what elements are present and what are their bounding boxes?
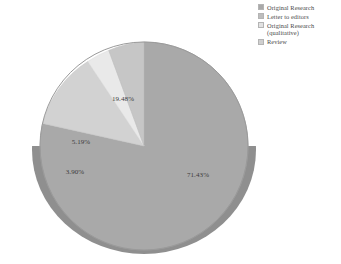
legend-item-label: Review bbox=[267, 38, 287, 46]
legend-swatch-icon bbox=[258, 22, 264, 28]
slice-value-label-original-research: 71.43% bbox=[187, 171, 209, 179]
legend-item-review[interactable]: Review bbox=[258, 38, 340, 46]
legend-item-original-research-qualitative[interactable]: Original Research (qualitative) bbox=[258, 21, 340, 37]
pie-chart-figure: 71.43% 19.48% 5.19% 3.90% Original Resea… bbox=[0, 0, 341, 264]
slice-value-label-review: 3.90% bbox=[66, 168, 85, 176]
slice-value-label-letter-to-editors: 19.48% bbox=[112, 95, 134, 103]
pie-svg bbox=[24, 26, 264, 258]
legend-swatch-icon bbox=[258, 39, 264, 45]
legend-item-original-research[interactable]: Original Research bbox=[258, 3, 340, 11]
legend-item-label: Original Research (qualitative) bbox=[267, 21, 314, 37]
legend-item-label: Original Research bbox=[267, 3, 314, 11]
legend-item-label: Letter to editors bbox=[267, 12, 309, 20]
chart-legend: Original Research Letter to editors Orig… bbox=[258, 3, 340, 47]
legend-item-letter-to-editors[interactable]: Letter to editors bbox=[258, 12, 340, 20]
legend-swatch-icon bbox=[258, 4, 264, 10]
slice-value-label-original-research-qualitative: 5.19% bbox=[72, 138, 91, 146]
pie-chart-plot-area: 71.43% 19.48% 5.19% 3.90% bbox=[24, 26, 264, 258]
legend-swatch-icon bbox=[258, 13, 264, 19]
